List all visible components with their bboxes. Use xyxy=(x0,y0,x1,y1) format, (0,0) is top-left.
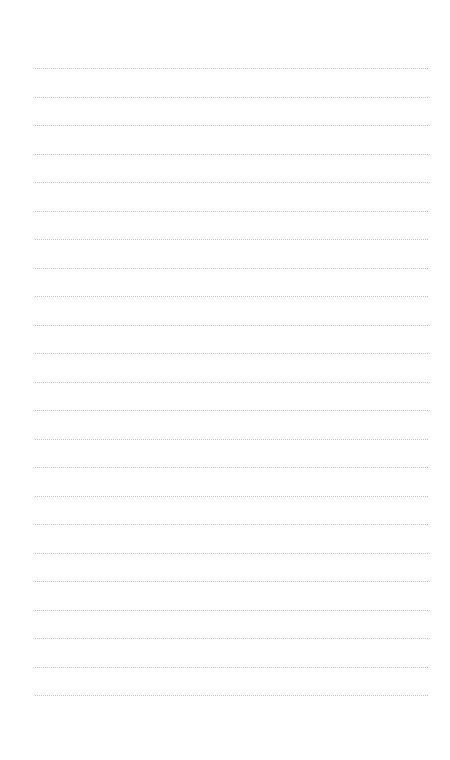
ruled-line xyxy=(35,581,428,582)
ruled-line xyxy=(35,325,428,326)
ruled-line xyxy=(35,439,428,440)
ruled-line xyxy=(35,182,428,183)
ruled-line xyxy=(35,97,428,98)
ruled-line xyxy=(35,382,428,383)
ruled-line xyxy=(35,296,428,297)
ruled-line xyxy=(35,410,428,411)
ruled-line xyxy=(35,667,428,668)
ruled-line xyxy=(35,695,428,696)
ruled-line xyxy=(35,524,428,525)
ruled-line xyxy=(35,553,428,554)
ruled-line xyxy=(35,125,428,126)
ruled-line xyxy=(35,68,428,69)
ruled-line xyxy=(35,610,428,611)
ruled-line xyxy=(35,211,428,212)
ruled-line xyxy=(35,239,428,240)
ruled-line xyxy=(35,467,428,468)
ruled-line xyxy=(35,154,428,155)
ruled-line xyxy=(35,268,428,269)
ruled-line xyxy=(35,496,428,497)
ruled-line xyxy=(35,638,428,639)
ruled-line xyxy=(35,353,428,354)
lined-paper-sheet xyxy=(0,0,450,760)
